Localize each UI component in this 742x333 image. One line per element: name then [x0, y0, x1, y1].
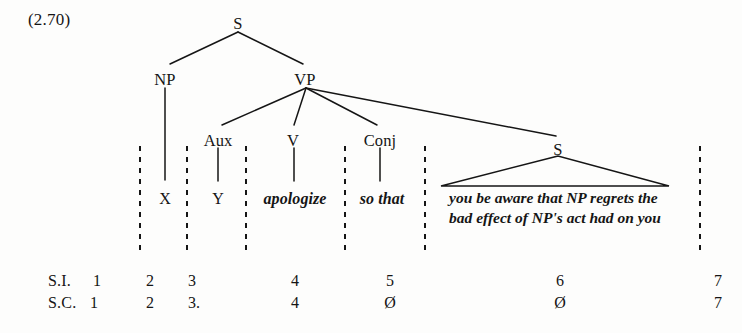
structural-change-cell-3: 3.	[188, 294, 200, 312]
edge-vp-to-embedded-s	[306, 88, 556, 136]
terminal-x: X	[159, 190, 171, 208]
structural-change-cell-6: Ø	[554, 294, 566, 312]
structural-index-cell-7: 7	[714, 272, 722, 290]
structural-index-cell-3: 3	[188, 272, 196, 290]
edge-s-to-np	[170, 32, 238, 64]
edge-vp-to-aux	[222, 88, 306, 125]
figure-canvas: (2.70) S NP VP Aux V Conj S X Y apologiz…	[0, 0, 742, 333]
structural-index-cell-4: 4	[291, 272, 299, 290]
structural-index-tag: S.I.	[48, 272, 71, 290]
embedded-clause-triangle	[441, 156, 669, 186]
structural-change-cell-4: 4	[291, 294, 299, 312]
example-number: (2.70)	[28, 10, 70, 30]
structural-change-cell-5: Ø	[384, 294, 396, 312]
edge-s-to-vp	[238, 32, 303, 64]
terminal-y: Y	[212, 190, 224, 208]
edge-vp-to-conj	[306, 88, 377, 125]
node-v: V	[287, 131, 299, 151]
structural-index-row: S.I. 1 2 3 4 5 6 7	[0, 272, 742, 294]
node-vp: VP	[294, 70, 315, 90]
structural-change-cell-2: 2	[146, 294, 154, 312]
node-np: NP	[154, 70, 175, 90]
structural-change-tag: S.C.	[48, 294, 76, 312]
structural-index-cell-2: 2	[146, 272, 154, 290]
edge-vp-to-v	[294, 88, 306, 125]
structural-change-row: S.C. 1 2 3. 4 Ø Ø 7	[0, 294, 742, 316]
structural-change-cell-1: 1	[90, 294, 98, 312]
embedded-clause-line-2: bad effect of NP's act had on you	[449, 208, 661, 228]
node-aux: Aux	[204, 131, 233, 151]
structural-index-cell-6: 6	[556, 272, 564, 290]
embedded-clause-line-1: you be aware that NP regrets the	[449, 188, 661, 208]
terminal-embedded-clause: you be aware that NP regrets the bad eff…	[449, 188, 661, 228]
node-s-root: S	[233, 14, 242, 34]
structural-index-cell-1: 1	[93, 272, 101, 290]
node-s-embedded: S	[553, 140, 562, 160]
structural-change-cell-7: 7	[714, 294, 722, 312]
structural-index-cell-5: 5	[386, 272, 394, 290]
node-conj: Conj	[364, 131, 397, 151]
terminal-so-that: so that	[360, 190, 405, 208]
terminal-apologize: apologize	[263, 190, 326, 208]
